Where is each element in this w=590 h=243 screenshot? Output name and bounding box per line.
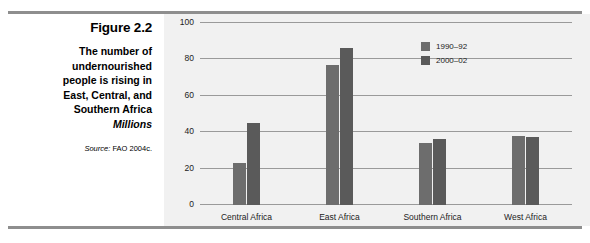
chart-panel: 020406080100 Central AfricaEast AfricaSo… bbox=[164, 14, 590, 226]
figure-container: Figure 2.2 The number of undernourished … bbox=[0, 0, 590, 243]
figure-title: The number of undernourished people is r… bbox=[10, 44, 152, 117]
bar bbox=[526, 137, 539, 205]
x-axis-tick-label: Southern Africa bbox=[403, 212, 461, 222]
bar bbox=[340, 48, 353, 205]
legend-label: 1990–92 bbox=[436, 42, 467, 51]
y-axis-tick-label: 60 bbox=[185, 90, 194, 100]
x-axis-tick-label: East Africa bbox=[319, 212, 360, 222]
bar-group bbox=[293, 23, 386, 205]
caption-panel: Figure 2.2 The number of undernourished … bbox=[0, 14, 164, 226]
legend-item: 1990–92 bbox=[421, 40, 467, 52]
x-axis-tick-label: Central Africa bbox=[221, 212, 272, 222]
figure-title-line: undernourished bbox=[10, 59, 152, 74]
source-label: Source: bbox=[84, 144, 110, 153]
legend-swatch-icon bbox=[421, 42, 430, 51]
figure-number: Figure 2.2 bbox=[10, 20, 152, 35]
bar-group bbox=[200, 23, 293, 205]
legend-label: 2000–02 bbox=[436, 56, 467, 65]
bar bbox=[419, 143, 432, 205]
figure-title-line: East, Central, and bbox=[10, 88, 152, 103]
figure-title-line: The number of bbox=[10, 44, 152, 59]
y-axis-tick-label: 20 bbox=[185, 163, 194, 173]
legend-item: 2000–02 bbox=[421, 54, 467, 66]
y-axis-tick-label: 40 bbox=[185, 126, 194, 136]
y-axis-tick-label: 80 bbox=[185, 53, 194, 63]
y-axis-tick-label: 0 bbox=[189, 199, 194, 209]
bar bbox=[326, 65, 339, 205]
bar-group bbox=[479, 23, 572, 205]
legend-swatch-icon bbox=[421, 56, 430, 65]
bottom-divider-rule bbox=[8, 226, 582, 229]
bar bbox=[433, 139, 446, 205]
x-axis-tick-label: West Africa bbox=[504, 212, 547, 222]
bar bbox=[247, 123, 260, 205]
bar bbox=[512, 136, 525, 205]
figure-title-line: people is rising in bbox=[10, 73, 152, 88]
figure-source: Source: FAO 2004c. bbox=[10, 144, 152, 153]
figure-title-line: Southern Africa bbox=[10, 102, 152, 117]
y-axis-tick-label: 100 bbox=[180, 17, 194, 27]
plot-area: 020406080100 Central AfricaEast AfricaSo… bbox=[200, 23, 572, 205]
bar bbox=[233, 163, 246, 205]
chart-legend: 1990–92 2000–02 bbox=[421, 40, 467, 68]
source-text: FAO 2004c. bbox=[112, 144, 152, 153]
figure-subtitle-units: Millions bbox=[10, 118, 152, 130]
bars-layer bbox=[200, 23, 572, 205]
